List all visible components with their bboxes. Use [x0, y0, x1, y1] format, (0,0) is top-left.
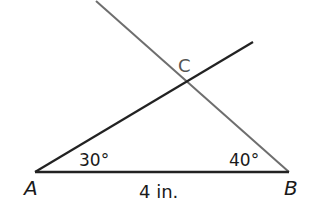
point-label-c: C [178, 55, 191, 76]
point-label-a: A [22, 176, 38, 200]
point-label-b: B [284, 176, 298, 200]
angle-label-a: 30° [79, 150, 109, 170]
angle-label-b: 40° [229, 150, 259, 170]
line-bc-ray [96, 1, 289, 172]
triangle-diagram: A B C 30° 40° 4 in. [0, 0, 325, 214]
line-ac-ray [35, 42, 253, 172]
side-length-ab: 4 in. [139, 181, 178, 202]
